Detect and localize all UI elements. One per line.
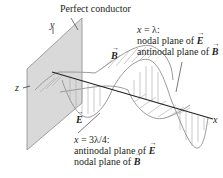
z-axis-label: z bbox=[15, 82, 19, 93]
conductor-plane bbox=[27, 18, 82, 150]
lambda-leader bbox=[176, 62, 182, 92]
y-axis-label: y bbox=[50, 19, 54, 30]
x-axis-label: x bbox=[213, 114, 217, 125]
e-vector-symbol: E bbox=[76, 114, 83, 125]
tql-annotation-line1: x = 3λ/4: bbox=[74, 134, 155, 145]
tql-annotation-line2: antinodal plane of E bbox=[74, 145, 155, 156]
e-vector-label: E bbox=[76, 114, 83, 125]
lambda-annotation: x = λ: nodal plane of E antinodal plane … bbox=[137, 24, 218, 57]
tql-annotation-line3: nodal plane of B bbox=[74, 156, 155, 167]
lambda-annotation-line1: x = λ: bbox=[137, 24, 218, 35]
b-vector-symbol: B bbox=[111, 50, 118, 61]
three-quarter-lambda-annotation: x = 3λ/4: antinodal plane of E nodal pla… bbox=[74, 134, 155, 167]
lambda-annotation-line2: nodal plane of E bbox=[137, 35, 218, 46]
perfect-conductor-label: Perfect conductor bbox=[60, 3, 131, 14]
b-vector-label: B bbox=[111, 50, 118, 61]
lambda-annotation-line3: antinodal plane of B bbox=[137, 46, 218, 57]
